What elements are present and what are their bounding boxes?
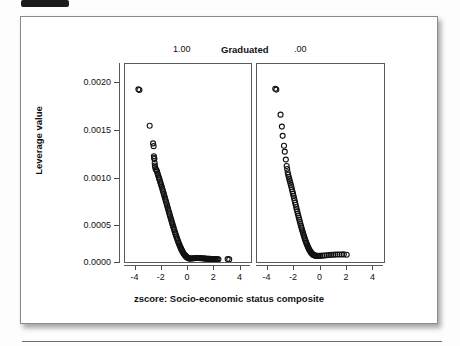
x-tick-label: 0 bbox=[178, 272, 196, 282]
x-tick-label: 0 bbox=[311, 272, 329, 282]
y-tick-mark bbox=[114, 82, 119, 83]
page-horizontal-rule bbox=[22, 341, 442, 342]
x-tick-mark bbox=[187, 265, 188, 270]
y-tick-label: 0.0005 bbox=[83, 220, 111, 230]
x-tick-label: 2 bbox=[204, 272, 222, 282]
facet-label-right: .00 bbox=[294, 44, 307, 54]
y-tick-label: 0.0020 bbox=[83, 77, 111, 87]
panel-graduated-1 bbox=[124, 63, 252, 263]
y-tick-mark bbox=[114, 130, 119, 131]
x-tick-mark bbox=[293, 265, 294, 270]
x-tick-label: 4 bbox=[363, 272, 381, 282]
x-tick-mark bbox=[320, 265, 321, 270]
x-tick-label: -4 bbox=[126, 272, 144, 282]
data-point bbox=[279, 124, 284, 129]
x-axis-title: zscore: Socio-economic status composite bbox=[21, 293, 437, 304]
y-tick-label: 0.0010 bbox=[83, 173, 111, 183]
data-point bbox=[147, 123, 152, 128]
x-tick-label: 4 bbox=[231, 272, 249, 282]
facet-label-left: 1.00 bbox=[173, 44, 191, 54]
y-axis-tick-labels: 0.0020 0.0015 0.0010 0.0005 0.0000 bbox=[49, 17, 111, 323]
y-tick-mark bbox=[114, 178, 119, 179]
panel-graduated-0 bbox=[256, 63, 385, 263]
scatter-right bbox=[257, 64, 384, 262]
x-tick-mark bbox=[267, 265, 268, 270]
y-tick-mark bbox=[114, 262, 119, 263]
cropped-header-bar bbox=[21, 0, 69, 7]
x-tick-mark bbox=[346, 265, 347, 270]
y-tick-label: 0.0015 bbox=[83, 125, 111, 135]
y-tick-label: 0.0000 bbox=[83, 257, 111, 267]
data-point bbox=[283, 157, 288, 162]
x-tick-label: -2 bbox=[152, 272, 170, 282]
data-point bbox=[278, 112, 283, 117]
y-tick-mark bbox=[114, 225, 119, 226]
y-axis-title: Leverage value bbox=[33, 81, 44, 201]
x-tick-mark bbox=[135, 265, 136, 270]
plot-area: 1.00 Graduated .00 0.0020 0.0015 0.0010 … bbox=[21, 17, 437, 323]
scatter-left bbox=[125, 64, 251, 262]
x-tick-mark bbox=[161, 265, 162, 270]
x-tick-mark bbox=[213, 265, 214, 270]
x-tick-mark bbox=[372, 265, 373, 270]
data-point bbox=[282, 149, 287, 154]
y-axis-line bbox=[119, 63, 120, 263]
data-point bbox=[281, 143, 286, 148]
x-tick-label: -2 bbox=[284, 272, 302, 282]
x-tick-mark bbox=[240, 265, 241, 270]
x-tick-label: -4 bbox=[258, 272, 276, 282]
facet-variable-label: Graduated bbox=[221, 44, 269, 55]
figure-container: 1.00 Graduated .00 0.0020 0.0015 0.0010 … bbox=[20, 16, 438, 324]
data-point bbox=[280, 133, 285, 138]
x-tick-label: 2 bbox=[337, 272, 355, 282]
